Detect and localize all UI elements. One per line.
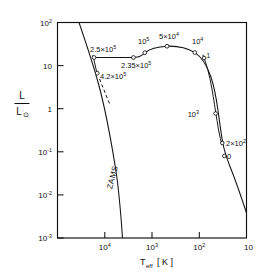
- label-1e4: 104: [192, 36, 203, 46]
- marker-0[interactable]: [223, 154, 227, 158]
- hr-diagram-plot: 102 10 1 10-1 10-2 10-3: [0, 0, 280, 274]
- y-axis-title-denominator: L: [16, 106, 22, 117]
- x-axis-title-unit: [ K ]: [157, 257, 173, 267]
- label-2p5e5: 2.5×105: [90, 44, 116, 54]
- marker-1e1[interactable]: [202, 56, 206, 60]
- y-tick-label-1e2: 102: [40, 18, 52, 28]
- data-point-markers: [92, 44, 226, 158]
- marker-2e2[interactable]: [221, 141, 225, 145]
- label-5e4: 5×104: [159, 31, 179, 41]
- y-axis-title: L L ⊙: [15, 90, 30, 118]
- x-axis-tick-labels: 104 103 102 10: [99, 242, 254, 252]
- marker-1e5[interactable]: [143, 51, 147, 55]
- x-tick-label-1e4: 104: [99, 242, 111, 252]
- x-tick-label-1e2: 102: [193, 242, 205, 252]
- secondary-descent-curve: [203, 55, 222, 144]
- y-tick-label-1em2: 10-2: [38, 190, 52, 200]
- label-2e2: 2×102: [226, 138, 246, 148]
- marker-1e3[interactable]: [214, 112, 218, 116]
- x-tick-label-1e3: 103: [146, 242, 158, 252]
- label-2p35e5: 2.35×105: [121, 60, 151, 70]
- y-axis-title-numerator: L: [19, 90, 25, 101]
- label-1e1: 1: [207, 52, 211, 59]
- x-axis-title-sub: eff: [146, 263, 153, 269]
- y-axis-tick-labels: 102 10 1 10-1 10-2 10-3: [38, 18, 52, 244]
- label-4p2e5: 4.2×105: [100, 71, 126, 81]
- x-tick-label-1e1: 10: [244, 243, 253, 252]
- chart-figure: 102 10 1 10-1 10-2 10-3: [0, 0, 280, 274]
- plot-frame: [58, 23, 247, 239]
- y-axis-ticks: [58, 23, 64, 239]
- marker-2p35e5[interactable]: [132, 56, 136, 60]
- label-1e5: 105: [138, 36, 149, 46]
- marker-4p2e5[interactable]: [95, 71, 99, 75]
- label-1e3: 103: [188, 109, 199, 119]
- y-tick-label-1e1: 10: [43, 62, 52, 71]
- x-axis-ticks: [105, 232, 247, 238]
- y-axis-title-denominator-sub: ⊙: [23, 111, 29, 118]
- marker-1e4[interactable]: [193, 51, 197, 55]
- zams-curve: [79, 23, 123, 239]
- marker-5e4[interactable]: [165, 44, 169, 48]
- marker-2p5e5[interactable]: [92, 56, 96, 60]
- label-0: 0: [227, 152, 231, 161]
- x-axis-title: T eff [ K ]: [140, 257, 173, 269]
- y-tick-label-1em3: 10-3: [38, 233, 52, 243]
- y-tick-label-1em1: 10-1: [38, 147, 52, 157]
- y-tick-label-1e0: 1: [48, 105, 53, 114]
